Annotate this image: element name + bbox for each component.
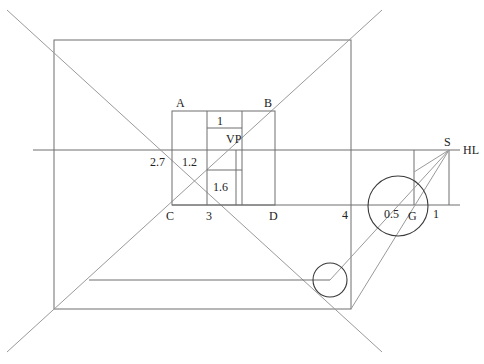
label-1-6: 1.6 [213,180,228,194]
label-b: B [264,96,272,110]
label-1-right: 1 [433,207,439,221]
label-0-5: 0.5 [384,207,399,221]
label-d: D [269,209,278,223]
label-vp: VP [226,132,242,146]
label-s: S [444,135,451,149]
perspective-diagram: A B C D VP S HL G 2.7 1.2 1 1.6 3 4 0.5 … [0,0,484,364]
label-hl: HL [463,143,479,157]
label-4: 4 [342,208,348,222]
label-2-7: 2.7 [150,155,165,169]
s-to-corner-line [351,150,449,309]
label-g: G [408,209,417,223]
label-1-top: 1 [217,114,223,128]
label-c: C [166,209,174,223]
label-1-2: 1.2 [182,155,197,169]
label-3: 3 [206,209,212,223]
label-a: A [176,96,185,110]
